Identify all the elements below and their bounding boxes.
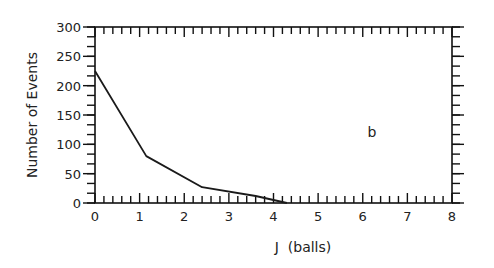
y-tick-label: 200 xyxy=(56,79,81,94)
x-tick-label: 4 xyxy=(269,209,277,224)
x-tick-label: 2 xyxy=(180,209,188,224)
panel-label: b xyxy=(368,124,377,140)
line-chart: 012345678 050100150200250300 b J (balls)… xyxy=(0,0,494,268)
axis-ticks xyxy=(83,27,464,203)
y-tick-label: 150 xyxy=(56,108,81,123)
x-tick-labels: 012345678 xyxy=(91,209,456,224)
y-tick-labels: 050100150200250300 xyxy=(56,20,81,211)
x-tick-label: 7 xyxy=(403,209,411,224)
data-series-line xyxy=(95,71,287,203)
y-tick-label: 0 xyxy=(73,196,81,211)
plot-frame xyxy=(95,27,452,203)
x-tick-label: 6 xyxy=(359,209,367,224)
y-tick-label: 50 xyxy=(64,167,81,182)
y-axis-title: Number of Events xyxy=(24,52,40,178)
x-tick-label: 8 xyxy=(448,209,456,224)
y-tick-label: 300 xyxy=(56,20,81,35)
x-axis-title: J (balls) xyxy=(274,239,332,255)
x-tick-label: 3 xyxy=(225,209,233,224)
y-tick-label: 250 xyxy=(56,49,81,64)
x-tick-label: 1 xyxy=(135,209,143,224)
x-tick-label: 5 xyxy=(314,209,322,224)
x-tick-label: 0 xyxy=(91,209,99,224)
y-tick-label: 100 xyxy=(56,137,81,152)
